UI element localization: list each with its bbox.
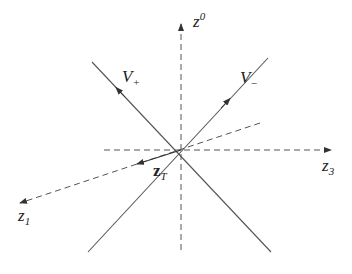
z3-label: z3 bbox=[322, 157, 334, 177]
zt-label: zT bbox=[153, 162, 167, 182]
v-minus-label: V− bbox=[240, 69, 258, 89]
z1-label: z1 bbox=[18, 207, 30, 227]
diagram-canvas: z0 z3 z1 V+ V− zT bbox=[0, 0, 352, 274]
v-plus-label: V+ bbox=[122, 68, 140, 88]
v-minus-arrow-icon bbox=[221, 99, 230, 109]
axes-svg bbox=[0, 0, 352, 274]
z0-label: z0 bbox=[193, 11, 205, 30]
v-plus-arrow-icon bbox=[116, 88, 125, 98]
